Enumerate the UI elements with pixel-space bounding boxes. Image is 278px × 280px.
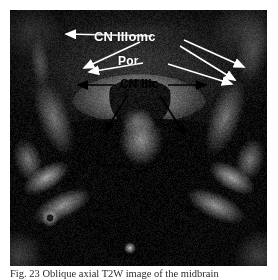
arrow-por-right-diagonal [168,64,232,84]
black-arrow-group [78,85,206,135]
label-cn-three-c: CN IIIc [120,78,159,90]
annotation-overlay [10,10,267,266]
label-cn-three-omc: CN IIIomc [94,30,156,43]
figure-container: CN IIIomc Por CN IIIc Fig. 23 Oblique ax… [0,0,278,280]
arrow-cn3c-right-diagonal-down [160,96,185,135]
arrow-cn3c-left-diagonal-down [105,96,127,132]
label-por: Por [118,55,139,67]
figure-caption: Fig. 23 Oblique axial T2W image of the m… [10,268,272,280]
mri-image-panel: CN IIIomc Por CN IIIc [10,10,267,266]
